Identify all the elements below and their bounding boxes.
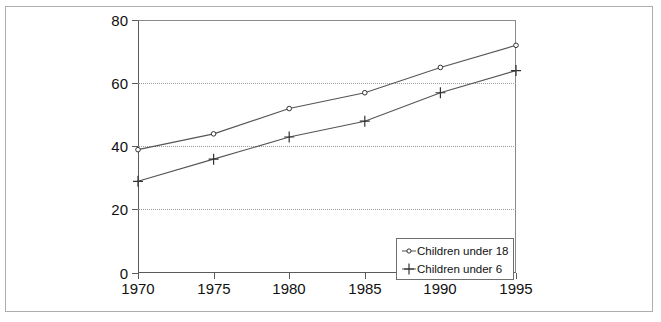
gridline-20: [138, 209, 516, 210]
x-axis-label-1980: 1980: [259, 281, 319, 297]
circle-marker-icon: [401, 244, 417, 258]
chart-legend: Children under 18 Children under 6: [396, 238, 514, 280]
legend-entry-children-under-6: Children under 6: [401, 260, 509, 278]
x-tick-1970: [138, 273, 139, 279]
y-axis-label-80: 80: [88, 13, 128, 28]
y-tick-40: [132, 146, 138, 147]
x-tick-1980: [289, 273, 290, 279]
x-axis-label-1985: 1985: [335, 281, 395, 297]
legend-label-children-under-6: Children under 6: [417, 263, 502, 276]
x-tick-1985: [365, 273, 366, 279]
x-tick-1995: [516, 273, 517, 279]
legend-entry-children-under-18: Children under 18: [401, 242, 509, 260]
gridline-60: [138, 83, 516, 84]
line-chart: 0 20 40 60 80 1970 1975 1980 1985 1990 1…: [0, 0, 661, 322]
legend-label-children-under-18: Children under 18: [417, 245, 508, 258]
y-axis-label-20: 20: [88, 202, 128, 217]
y-axis-label-60: 60: [88, 76, 128, 91]
y-tick-20: [132, 209, 138, 210]
y-tick-60: [132, 83, 138, 84]
y-axis-label-0: 0: [88, 266, 128, 281]
plus-marker-icon: [401, 262, 417, 276]
x-axis-label-1995: 1995: [486, 281, 546, 297]
x-tick-1975: [214, 273, 215, 279]
x-axis-label-1975: 1975: [184, 281, 244, 297]
x-axis-label-1990: 1990: [410, 281, 470, 297]
gridline-40: [138, 146, 516, 147]
y-axis-label-40: 40: [88, 139, 128, 154]
x-axis-label-1970: 1970: [108, 281, 168, 297]
y-tick-80: [132, 20, 138, 21]
